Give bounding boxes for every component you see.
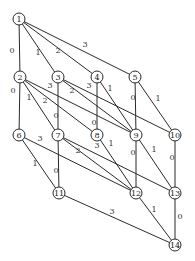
node-10: 10 (169, 129, 181, 141)
edge-6-11 (19, 135, 59, 193)
node-label: 5 (132, 73, 137, 82)
node-14: 14 (169, 239, 181, 251)
edge-4-9 (97, 77, 136, 135)
node-6: 6 (13, 129, 25, 141)
edge-12-14 (136, 193, 175, 245)
edge-label-9-13: 1 (151, 145, 156, 154)
edge-label-2-6: 0 (10, 86, 15, 95)
edge-label-1-5: 3 (82, 40, 87, 49)
edge-label-7-12: 2 (75, 146, 80, 155)
node-label: 12 (131, 189, 141, 198)
edge-label-2-9: 3 (47, 81, 52, 90)
node-8: 8 (91, 129, 103, 141)
edge-label-3-7: 0 (53, 111, 58, 120)
edge-label-2-7: 1 (26, 93, 31, 102)
edge-label-12-14: 1 (151, 205, 156, 214)
edge-label-7-13: 3 (94, 141, 99, 150)
node-label: 2 (17, 73, 22, 82)
node-label: 13 (170, 189, 180, 198)
edge-2-9 (20, 77, 136, 135)
edge-label-6-12: 3 (37, 134, 42, 143)
edge-label-5-10: 1 (155, 94, 160, 103)
node-13: 13 (169, 187, 181, 199)
edge-label-8-12: 1 (108, 139, 113, 148)
edge-label-5-9: 0 (130, 93, 135, 102)
node-label: 8 (94, 131, 99, 140)
node-label: 3 (55, 73, 60, 82)
node-label: 14 (170, 241, 180, 250)
node-label: 1 (16, 15, 21, 24)
edge-label-3-10: 3 (86, 81, 91, 90)
node-12: 12 (130, 187, 142, 199)
edge-label-4-9: 1 (107, 84, 112, 93)
edge-11-14 (59, 193, 175, 245)
edge-label-11-14: 3 (109, 207, 114, 216)
node-5: 5 (129, 71, 141, 83)
edge-8-12 (97, 135, 136, 193)
edge-label-13-14: 0 (177, 212, 182, 221)
node-label: 4 (94, 73, 99, 82)
edge-5-10 (135, 77, 175, 135)
edge-2-6 (19, 77, 20, 135)
edge-label-3-9: 2 (69, 86, 74, 95)
edge-label-1-3: 1 (35, 48, 40, 57)
edge-label-1-2: 0 (9, 46, 14, 55)
edge-label-4-8: 0 (91, 118, 96, 127)
node-2: 2 (14, 71, 26, 83)
edge-7-11 (58, 135, 59, 193)
node-label: 10 (170, 131, 180, 140)
edge-label-2-8: 2 (42, 96, 47, 105)
edge-label-7-11: 0 (53, 166, 58, 175)
node-1: 1 (13, 13, 25, 25)
node-label: 6 (16, 131, 21, 140)
node-7: 7 (52, 129, 64, 141)
edge-1-2 (19, 19, 20, 77)
edge-label-10-13: 0 (169, 153, 174, 162)
node-label: 9 (133, 131, 138, 140)
edge-label-1-4: 2 (55, 46, 60, 55)
node-4: 4 (91, 71, 103, 83)
node-11: 11 (53, 187, 65, 199)
lattice-graph: 012301230230101130231010310 123456789101… (0, 0, 195, 261)
node-9: 9 (130, 129, 142, 141)
edge-5-9 (135, 77, 136, 135)
node-label: 11 (54, 189, 64, 198)
edge-label-6-11: 1 (32, 159, 37, 168)
edge-label-9-12: 0 (130, 148, 135, 157)
node-label: 7 (55, 131, 60, 140)
node-3: 3 (52, 71, 64, 83)
